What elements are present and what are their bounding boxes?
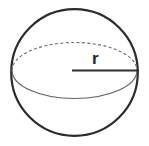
radius-label: r bbox=[92, 50, 99, 67]
equator-hidden-arc bbox=[12, 43, 137, 71]
sphere-figure-svg bbox=[0, 0, 149, 146]
sphere-outline-circle bbox=[11, 9, 138, 136]
sphere-diagram: r bbox=[0, 0, 149, 146]
equator-visible-arc bbox=[12, 71, 137, 99]
